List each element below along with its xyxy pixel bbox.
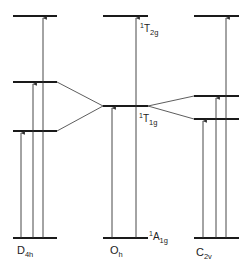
correlation-line <box>57 82 103 106</box>
energy-level-diagram: D4h Oh 1T2g 1T1g 1A1g <box>0 0 250 265</box>
correlation-line <box>148 96 194 106</box>
correlation-line <box>57 106 103 131</box>
column-label-oh: Oh <box>110 244 123 259</box>
column-oh: Oh 1T2g 1T1g 1A1g <box>103 16 168 259</box>
column-d4h: D4h <box>13 16 57 259</box>
state-label-t2g: 1T2g <box>140 22 158 37</box>
state-label-a1g: 1A1g <box>149 230 168 245</box>
state-label-t1g: 1T1g <box>139 112 157 127</box>
column-c2v: C2v <box>194 16 239 261</box>
column-label-d4h: D4h <box>17 244 33 259</box>
column-label-c2v: C2v <box>196 246 212 261</box>
